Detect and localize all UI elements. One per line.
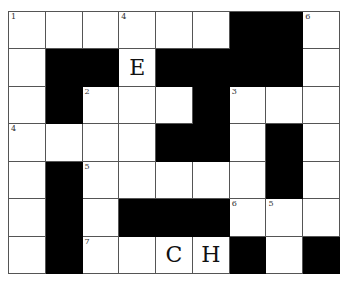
crossword-cell[interactable]: 7 (83, 237, 120, 274)
crossword-cell[interactable] (230, 162, 267, 199)
block-cell (156, 199, 193, 236)
clue-number: 2 (85, 88, 90, 96)
crossword-cell[interactable] (9, 237, 46, 274)
crossword-cell[interactable]: 3 (230, 87, 267, 124)
clue-number: 6 (305, 13, 310, 21)
crossword-cell[interactable] (303, 162, 340, 199)
block-cell (46, 49, 83, 86)
block-cell (303, 237, 340, 274)
block-cell (230, 12, 267, 49)
cell-letter: H (193, 237, 229, 273)
block-cell (46, 162, 83, 199)
crossword-cell[interactable] (156, 162, 193, 199)
crossword-cell[interactable] (119, 87, 156, 124)
block-cell (156, 49, 193, 86)
crossword-cell[interactable]: 5 (266, 199, 303, 236)
crossword-cell[interactable]: H (193, 237, 230, 274)
block-cell (156, 124, 193, 161)
crossword-cell[interactable] (156, 12, 193, 49)
crossword-cell[interactable] (303, 49, 340, 86)
block-cell (230, 237, 267, 274)
block-cell (46, 199, 83, 236)
crossword-cell[interactable] (83, 12, 120, 49)
cell-letter: C (156, 237, 192, 273)
crossword-cell[interactable] (119, 162, 156, 199)
crossword-cell[interactable] (9, 87, 46, 124)
crossword-cell[interactable] (303, 87, 340, 124)
crossword-cell[interactable]: E (119, 49, 156, 86)
crossword-cell[interactable] (193, 162, 230, 199)
crossword-cell[interactable] (193, 12, 230, 49)
block-cell (119, 199, 156, 236)
block-cell (266, 49, 303, 86)
clue-number: 4 (121, 13, 126, 21)
crossword-cell[interactable] (266, 87, 303, 124)
crossword-cell[interactable] (156, 87, 193, 124)
clue-number: 6 (232, 200, 237, 208)
block-cell (230, 49, 267, 86)
crossword-cell[interactable] (303, 199, 340, 236)
clue-number: 5 (268, 200, 273, 208)
block-cell (193, 199, 230, 236)
crossword-cell[interactable] (9, 49, 46, 86)
crossword-cell[interactable] (230, 124, 267, 161)
crossword-cell[interactable] (119, 124, 156, 161)
crossword-cell[interactable]: 6 (230, 199, 267, 236)
crossword-grid: 146E2345657CH (8, 11, 340, 274)
clue-number: 5 (85, 163, 90, 171)
block-cell (193, 49, 230, 86)
crossword-cell[interactable] (9, 162, 46, 199)
clue-number: 7 (85, 238, 90, 246)
crossword-cell[interactable] (9, 199, 46, 236)
crossword-cell[interactable]: 1 (9, 12, 46, 49)
block-cell (83, 49, 120, 86)
crossword-cell[interactable]: 6 (303, 12, 340, 49)
clue-number: 4 (11, 125, 16, 133)
clue-number: 3 (232, 88, 237, 96)
crossword-cell[interactable] (46, 12, 83, 49)
crossword-cell[interactable]: 4 (9, 124, 46, 161)
crossword-cell[interactable]: C (156, 237, 193, 274)
crossword-cell[interactable]: 2 (83, 87, 120, 124)
crossword-cell[interactable] (83, 199, 120, 236)
crossword-cell[interactable] (303, 124, 340, 161)
block-cell (46, 237, 83, 274)
block-cell (193, 87, 230, 124)
crossword-cell[interactable] (46, 124, 83, 161)
block-cell (193, 124, 230, 161)
crossword-cell[interactable] (119, 237, 156, 274)
block-cell (266, 124, 303, 161)
crossword-cell[interactable] (266, 237, 303, 274)
block-cell (266, 162, 303, 199)
cell-letter: E (119, 49, 155, 85)
crossword-cell[interactable]: 4 (119, 12, 156, 49)
crossword-cell[interactable]: 5 (83, 162, 120, 199)
clue-number: 1 (11, 13, 16, 21)
block-cell (46, 87, 83, 124)
crossword-cell[interactable] (83, 124, 120, 161)
block-cell (266, 12, 303, 49)
